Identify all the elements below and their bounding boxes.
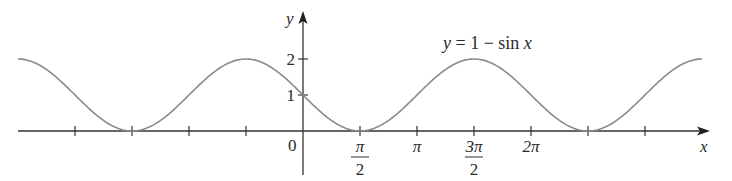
svg-text:2: 2 [356, 160, 365, 179]
x-tick-labels: π2π3π22π [351, 137, 540, 179]
y-tick-label: 1 [287, 86, 296, 105]
y-axis-label: y [284, 9, 294, 28]
x-tick-label: π2 [351, 137, 369, 179]
chart-plot: y x 0 y = 1 − sin x 12 π2π3π22π [0, 0, 732, 181]
x-tick-label: 3π2 [464, 137, 483, 179]
origin-label: 0 [288, 136, 297, 155]
y-tick-label: 2 [287, 50, 296, 69]
x-axis-label: x [699, 137, 708, 156]
svg-text:2: 2 [470, 160, 479, 179]
curve-1-minus-sin-x [18, 59, 702, 131]
x-tick-label: 2π [522, 137, 540, 156]
x-tick-label: π [413, 137, 422, 156]
labels: y x 0 y = 1 − sin x 12 π2π3π22π [284, 9, 708, 179]
y-tick-labels: 12 [287, 50, 296, 105]
svg-text:π: π [356, 137, 365, 156]
svg-text:3π: 3π [464, 137, 483, 156]
equation-label: y = 1 − sin x [441, 33, 532, 53]
